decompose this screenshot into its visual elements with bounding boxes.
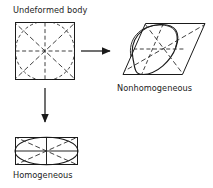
nonhomogeneous-label: Nonhomogeneous <box>117 83 192 93</box>
homogeneous-group <box>14 137 79 166</box>
nonhomogeneous-group <box>120 22 205 76</box>
nonhomogeneous-diagonal-down <box>145 24 183 74</box>
figure-canvas <box>0 0 213 188</box>
deformation-figure: Undeformed body Nonhomogeneous Homogeneo… <box>0 0 213 188</box>
homogeneous-label: Homogeneous <box>13 170 73 180</box>
undeformed-square-group <box>13 21 77 81</box>
undeformed-body-label: Undeformed body <box>13 5 87 15</box>
